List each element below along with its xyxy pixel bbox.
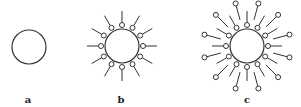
inner-ligand-head bbox=[255, 25, 260, 30]
outer-ligand-tail bbox=[266, 65, 276, 75]
outer-ligand-head bbox=[233, 86, 238, 91]
inner-ligand-head bbox=[138, 54, 143, 59]
inner-ligand-tail bbox=[267, 58, 277, 64]
inner-ligand-head bbox=[266, 44, 271, 49]
inner-ligand-head bbox=[245, 23, 250, 28]
core-sphere bbox=[105, 29, 139, 63]
inner-ligand-head bbox=[234, 62, 239, 67]
inner-ligand-head bbox=[101, 54, 106, 59]
inner-ligand-head bbox=[120, 23, 125, 28]
inner-ligand-tail bbox=[259, 16, 265, 26]
inner-ligand-head bbox=[130, 25, 135, 30]
outer-ligand-tail bbox=[218, 65, 228, 75]
inner-ligand-tail bbox=[259, 66, 265, 76]
outer-ligand-tail bbox=[236, 6, 240, 20]
inner-ligand-tail bbox=[142, 58, 152, 64]
inner-ligand-tail bbox=[267, 29, 277, 35]
inner-ligand-tail bbox=[217, 29, 227, 35]
outer-ligand-tail bbox=[207, 53, 221, 57]
inner-ligand-head bbox=[101, 33, 106, 38]
outer-ligand-head bbox=[233, 1, 238, 6]
outer-ligand-tail bbox=[273, 35, 287, 39]
inner-ligand-tail bbox=[134, 66, 140, 76]
inner-ligand-head bbox=[120, 65, 125, 70]
outer-ligand-head bbox=[276, 75, 281, 80]
outer-ligand-tail bbox=[218, 17, 228, 27]
outer-ligand-head bbox=[287, 55, 292, 60]
outer-ligand-tail bbox=[254, 6, 258, 20]
core-sphere bbox=[230, 29, 264, 63]
diagram-canvas bbox=[0, 0, 301, 107]
diagram-figure: a b c bbox=[0, 0, 301, 107]
inner-ligand-tail bbox=[230, 16, 236, 26]
outer-ligand-head bbox=[256, 1, 261, 6]
panel-label-c: c bbox=[244, 95, 250, 105]
inner-ligand-head bbox=[99, 44, 104, 49]
panel-label-a: a bbox=[25, 95, 31, 105]
inner-ligand-tail bbox=[92, 58, 102, 64]
inner-ligand-head bbox=[245, 65, 250, 70]
panel-a-bare-sphere bbox=[12, 30, 46, 64]
outer-ligand-head bbox=[287, 32, 292, 37]
outer-ligand-head bbox=[213, 12, 218, 17]
panel-c-sphere-with-two-ligand-layers bbox=[202, 1, 292, 91]
inner-ligand-head bbox=[226, 54, 231, 59]
panel-label-b: b bbox=[118, 95, 125, 105]
outer-ligand-tail bbox=[273, 53, 287, 57]
inner-ligand-head bbox=[138, 33, 143, 38]
panel-b-sphere-with-inner-ligands bbox=[87, 11, 157, 81]
outer-ligand-head bbox=[256, 86, 261, 91]
inner-ligand-tail bbox=[105, 16, 111, 26]
inner-ligand-head bbox=[234, 25, 239, 30]
outer-ligand-head bbox=[202, 32, 207, 37]
inner-ligand-head bbox=[263, 54, 268, 59]
inner-ligand-head bbox=[109, 25, 114, 30]
outer-ligand-head bbox=[202, 55, 207, 60]
outer-ligand-tail bbox=[254, 72, 258, 86]
core-sphere bbox=[12, 30, 46, 64]
inner-ligand-head bbox=[255, 62, 260, 67]
inner-ligand-head bbox=[130, 62, 135, 67]
outer-ligand-head bbox=[213, 75, 218, 80]
inner-ligand-tail bbox=[217, 58, 227, 64]
inner-ligand-tail bbox=[142, 29, 152, 35]
inner-ligand-head bbox=[141, 44, 146, 49]
inner-ligand-tail bbox=[134, 16, 140, 26]
inner-ligand-tail bbox=[92, 29, 102, 35]
outer-ligand-tail bbox=[207, 35, 221, 39]
inner-ligand-tail bbox=[105, 66, 111, 76]
inner-ligand-head bbox=[226, 33, 231, 38]
inner-ligand-tail bbox=[230, 66, 236, 76]
outer-ligand-head bbox=[276, 12, 281, 17]
inner-ligand-head bbox=[263, 33, 268, 38]
inner-ligand-head bbox=[109, 62, 114, 67]
outer-ligand-tail bbox=[266, 17, 276, 27]
inner-ligand-head bbox=[224, 44, 229, 49]
outer-ligand-tail bbox=[236, 72, 240, 86]
